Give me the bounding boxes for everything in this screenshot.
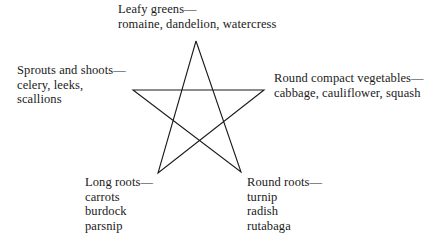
category-item: cabbage, cauliflower, squash [274,86,424,101]
category-item: burdock [85,204,153,219]
category-sprouts-and-shoots: Sprouts and shoots— celery, leeks, scall… [17,63,126,107]
category-long-roots: Long roots— carrots burdock parsnip [85,175,153,233]
category-title: Round roots— [247,175,322,190]
category-round-roots: Round roots— turnip radish rutabaga [247,175,322,233]
category-title: Round compact vegetables— [274,71,424,86]
category-round-compact-vegetables: Round compact vegetables— cabbage, cauli… [274,71,424,100]
category-item: carrots [85,190,153,205]
category-title: Sprouts and shoots— [17,63,126,78]
category-item: radish [247,204,322,219]
category-item: celery, leeks, [17,78,126,93]
category-item: rutabaga [247,219,322,234]
category-item: parsnip [85,219,153,234]
pentagram-star [0,0,439,249]
category-title: Leafy greens— [118,2,277,17]
category-item: romaine, dandelion, watercress [118,17,277,32]
category-item: turnip [247,190,322,205]
category-leafy-greens: Leafy greens— romaine, dandelion, waterc… [118,2,277,31]
category-title: Long roots— [85,175,153,190]
category-item: scallions [17,92,126,107]
star-outline [133,41,264,173]
